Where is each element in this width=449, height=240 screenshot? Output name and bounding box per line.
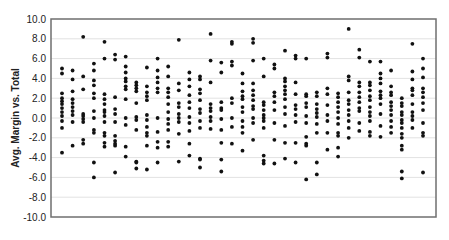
data-point [71,113,75,117]
data-point [103,120,107,124]
data-point [103,141,107,145]
data-point [230,42,234,46]
data-point [71,69,75,73]
data-point [188,142,192,146]
data-point [103,97,107,101]
data-point [336,122,340,126]
data-point [389,104,393,108]
data-point [134,167,138,171]
data-point [103,40,107,44]
data-point [145,84,149,88]
data-point [60,102,64,106]
data-point [241,110,245,114]
data-point [124,97,128,101]
data-point [294,161,298,165]
data-point [421,121,425,125]
data-point [198,126,202,130]
data-point [92,116,96,120]
data-point [411,126,415,130]
data-point [113,95,117,99]
data-point [145,90,149,94]
data-point [145,134,149,138]
data-point [103,145,107,149]
data-point [156,69,160,73]
data-point [283,84,287,88]
data-point [400,113,404,117]
data-point [198,166,202,170]
data-point [124,145,128,149]
data-point [336,146,340,150]
data-point [188,84,192,88]
data-point [166,65,170,69]
data-point [71,144,75,148]
data-point [71,78,75,82]
data-point [326,56,330,60]
data-point [103,114,107,118]
data-point [177,101,181,105]
data-point [357,81,361,85]
data-point [357,95,361,99]
data-point [336,91,340,95]
data-point [400,177,404,181]
data-point [304,178,308,182]
data-point [315,115,319,119]
data-point [273,100,277,104]
data-point [262,126,266,130]
data-point [368,60,372,64]
data-point [294,57,298,61]
data-point [219,100,223,104]
data-point [230,142,234,146]
data-point [262,103,266,107]
data-point [103,110,107,114]
data-point [209,109,213,113]
data-point [400,132,404,136]
data-point [400,96,404,100]
data-point [103,134,107,138]
data-point [347,75,351,79]
data-point [379,89,383,93]
data-point [336,155,340,159]
data-point [326,52,330,56]
data-point [241,119,245,123]
data-point [81,87,85,91]
data-point [326,113,330,117]
data-point [241,125,245,129]
data-point [273,67,277,71]
data-point [209,59,213,63]
data-point [134,101,138,105]
data-point [60,110,64,114]
y-tick-label: -4.0 [29,152,47,163]
data-point [283,157,287,161]
data-point [92,109,96,113]
data-point [368,134,372,138]
data-point [304,144,308,148]
data-point [273,108,277,112]
data-point [273,138,277,142]
data-point [304,114,308,118]
data-point [219,141,223,145]
data-point [400,170,404,174]
data-point [241,131,245,135]
data-point [421,171,425,175]
data-point [188,78,192,82]
data-point [188,106,192,110]
data-point [368,105,372,109]
data-point [347,90,351,94]
data-point [273,94,277,98]
data-point [315,131,319,135]
data-point [379,96,383,100]
data-point [198,119,202,123]
data-point [124,123,128,127]
data-point [145,118,149,122]
data-point [315,90,319,94]
data-point [326,92,330,96]
data-point [166,90,170,94]
data-point [177,82,181,86]
data-point [304,57,308,61]
data-point [124,87,128,91]
data-point [283,80,287,84]
data-point [368,110,372,114]
data-point [421,101,425,105]
data-point [124,65,128,69]
data-point [411,70,415,74]
